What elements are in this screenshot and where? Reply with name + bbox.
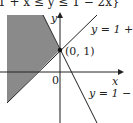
line-label-2: y = 1 − 2x: [89, 88, 133, 99]
y-axis-arrow-icon: [57, 12, 63, 18]
x-axis-label: x: [112, 76, 118, 87]
graph: [0, 0, 133, 123]
x-axis-arrow-icon: [118, 69, 124, 75]
y-axis-label: y: [51, 13, 57, 24]
line-label-1: y = 1 + x: [91, 24, 133, 35]
origin-label: 0: [52, 75, 59, 86]
point-label: (0, 1): [65, 46, 95, 57]
intersection-point: [58, 48, 62, 52]
line-y-1-minus-2x: [43, 15, 97, 123]
